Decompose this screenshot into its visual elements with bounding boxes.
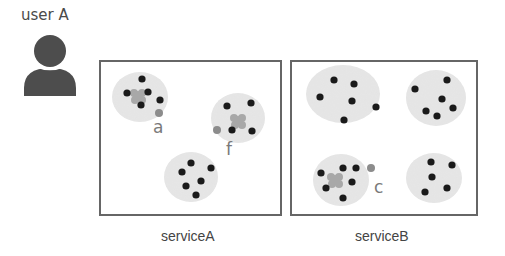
instance-dot: [348, 178, 355, 185]
instance-dot: [192, 191, 199, 198]
instance-dot: [144, 88, 151, 95]
cluster: [406, 70, 466, 126]
service-a-label: serviceA: [161, 228, 215, 244]
instance-dot: [339, 164, 346, 171]
centroid-blob-icon: [327, 173, 343, 188]
instance-dot: [316, 93, 323, 100]
instance-dot: [443, 184, 450, 191]
instance-dot: [182, 182, 189, 189]
service-box-serviceA: af: [100, 61, 281, 215]
instance-dot: [433, 112, 440, 119]
instance-dot: [352, 164, 359, 171]
service-box-serviceB: c: [291, 61, 477, 215]
instance-dot: [339, 194, 346, 201]
cluster: [164, 152, 218, 202]
instance-dot: [340, 116, 347, 123]
instance-dot: [123, 89, 130, 96]
cluster: [306, 65, 380, 124]
user-a-person-icon: [24, 35, 76, 96]
instance-dot: [448, 161, 455, 168]
instance-dot: [317, 169, 324, 176]
instance-dot: [438, 95, 445, 102]
instance-dot: [223, 102, 230, 109]
service-diagram: afc: [0, 0, 505, 256]
instance-dot: [422, 107, 429, 114]
cluster: c: [313, 154, 383, 206]
point-label-c: c: [374, 177, 383, 197]
instance-dot: [197, 177, 204, 184]
instance-dot: [248, 127, 255, 134]
instance-dot: [187, 159, 194, 166]
outlier-dot-a: [155, 109, 163, 117]
instance-dot: [322, 184, 329, 191]
instance-dot: [348, 97, 355, 104]
instance-dot: [137, 101, 144, 108]
instance-dot: [421, 188, 428, 195]
instance-dot: [428, 173, 435, 180]
instance-dot: [449, 104, 456, 111]
instance-dot: [443, 76, 450, 83]
instance-dot: [330, 76, 337, 83]
instance-dot: [138, 75, 145, 82]
instance-dot: [350, 80, 357, 87]
instance-dot: [228, 126, 235, 133]
instance-dot: [427, 158, 434, 165]
service-b-label: serviceB: [355, 228, 409, 244]
instance-dot: [372, 103, 379, 110]
instance-dot: [411, 85, 418, 92]
cluster: [406, 153, 462, 203]
centroid-blob-icon: [130, 89, 146, 104]
instance-dot: [247, 99, 254, 106]
instance-dot: [207, 164, 214, 171]
cluster-region: [306, 65, 380, 123]
point-label-f: f: [226, 139, 233, 159]
cluster: f: [211, 93, 265, 159]
cluster: a: [112, 72, 168, 137]
point-label-a: a: [153, 117, 163, 137]
outlier-dot-f: [213, 126, 221, 134]
instance-dot: [156, 96, 163, 103]
outlier-dot-c: [367, 164, 375, 172]
instance-dot: [178, 168, 185, 175]
